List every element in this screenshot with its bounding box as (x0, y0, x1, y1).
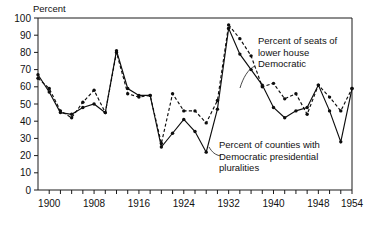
data-point-marker (283, 97, 286, 100)
x-tick-label: 1940 (262, 198, 285, 209)
y-tick-label: 70 (20, 64, 32, 75)
data-point-marker (227, 27, 230, 30)
x-tick-label: 1908 (83, 198, 106, 209)
data-point-marker (126, 87, 129, 90)
data-point-marker (193, 109, 196, 112)
data-point-marker (126, 92, 129, 95)
chart-container: Percent 0102030405060708090100 190019081… (0, 0, 386, 229)
data-point-marker (48, 87, 51, 90)
y-tick-label: 80 (20, 47, 32, 58)
data-point-marker (350, 87, 353, 90)
x-tick-label: 1900 (38, 198, 61, 209)
data-point-marker (339, 109, 342, 112)
annotation-line: lower house (258, 47, 309, 58)
x-tick-label: 1954 (341, 198, 364, 209)
data-point-marker (339, 140, 342, 143)
y-axis-title-group: Percent (33, 3, 66, 14)
data-point-marker (182, 109, 185, 112)
y-tick-label: 100 (14, 13, 31, 24)
annotation-layer: Percent of seats oflower houseDemocratic… (219, 35, 338, 173)
data-point-marker (261, 83, 264, 86)
data-point-marker (216, 107, 219, 110)
data-point-marker (205, 121, 208, 124)
data-point-marker (238, 37, 241, 40)
data-point-marker (272, 82, 275, 85)
y-axis-ticks: 0102030405060708090100 (14, 13, 38, 196)
data-point-marker (227, 23, 230, 26)
annotation-line: Percent of counties with (219, 139, 320, 150)
lower-house-annotation: Percent of seats oflower houseDemocratic (258, 35, 338, 69)
data-point-marker (148, 94, 151, 97)
data-point-marker (272, 106, 275, 109)
data-point-marker (160, 145, 163, 148)
annotation-line: Democratic (258, 58, 306, 69)
data-point-marker (36, 77, 39, 80)
y-axis-title: Percent (33, 3, 66, 14)
annotation-line: Democratic presidential (219, 151, 318, 162)
y-tick-label: 0 (25, 185, 31, 196)
x-axis-ticks: 19001908191619241932194019481954 (38, 190, 363, 209)
data-point-marker (328, 109, 331, 112)
leader-line-lower-house (240, 66, 255, 88)
line-chart: Percent 0102030405060708090100 190019081… (0, 0, 386, 229)
y-tick-label: 90 (20, 30, 32, 41)
data-point-marker (294, 109, 297, 112)
data-point-marker (115, 49, 118, 52)
counties-annotation: Percent of counties withDemocratic presi… (219, 139, 320, 173)
data-point-marker (249, 54, 252, 57)
data-point-marker (328, 95, 331, 98)
data-point-marker (70, 113, 73, 116)
data-point-marker (182, 118, 185, 121)
data-point-marker (92, 102, 95, 105)
data-point-marker (59, 111, 62, 114)
annotation-line: Percent of seats of (258, 35, 338, 46)
data-point-marker (305, 113, 308, 116)
y-tick-label: 40 (20, 116, 32, 127)
data-point-marker (305, 106, 308, 109)
data-point-marker (70, 116, 73, 119)
y-tick-label: 50 (20, 99, 32, 110)
data-point-marker (238, 52, 241, 55)
annotation-line: pluralities (219, 162, 259, 173)
x-tick-label: 1932 (218, 198, 241, 209)
data-point-marker (294, 92, 297, 95)
data-point-marker (317, 83, 320, 86)
data-point-marker (283, 116, 286, 119)
data-point-marker (48, 90, 51, 93)
data-point-marker (171, 92, 174, 95)
data-point-marker (36, 73, 39, 76)
x-tick-label: 1916 (128, 198, 151, 209)
data-point-marker (193, 130, 196, 133)
y-tick-label: 30 (20, 133, 32, 144)
x-tick-label: 1948 (307, 198, 330, 209)
data-point-marker (92, 89, 95, 92)
data-point-marker (81, 106, 84, 109)
y-tick-label: 60 (20, 81, 32, 92)
data-point-marker (216, 99, 219, 102)
x-tick-label: 1924 (173, 198, 196, 209)
y-tick-label: 10 (20, 167, 32, 178)
data-point-marker (137, 94, 140, 97)
data-point-marker (205, 150, 208, 153)
data-point-marker (160, 142, 163, 145)
y-tick-label: 20 (20, 150, 32, 161)
data-point-marker (104, 111, 107, 114)
data-point-marker (81, 101, 84, 104)
data-point-marker (171, 132, 174, 135)
